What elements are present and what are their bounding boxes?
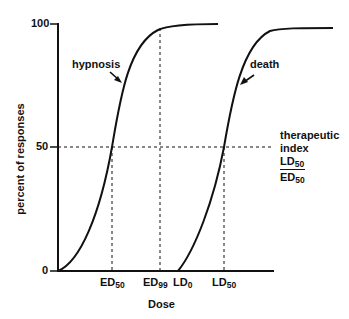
x-tick-ld50-main: LD [212,276,227,288]
y-tick-label-100: 100 [31,18,49,29]
x-tick-ld0-sub: 0 [188,280,193,290]
ti-line1: therapeutic [280,129,339,142]
x-tick-ed50-main: ED [100,276,115,288]
y-tick-label-0: 0 [42,265,48,276]
ti-line2: index [280,142,339,155]
therapeutic-index-annotation: therapeutic index LD50 ED50 [280,129,339,184]
ti-fraction: LD50 ED50 [280,156,305,184]
x-tick-ld50-sub: 50 [227,280,236,290]
ti-den-main: ED [280,171,295,183]
ti-num-main: LD [280,155,295,167]
death-label: death [250,59,279,70]
y-tick-label-50: 50 [36,141,48,152]
x-tick-ed99-main: ED [143,276,158,288]
ti-den-sub: 50 [295,175,304,185]
death-arrow-icon [240,75,254,85]
y-axis-label: percent of responses [14,103,26,214]
x-tick-ed99: ED99 [143,277,168,288]
ti-num-sub: 50 [295,159,304,169]
x-tick-ld50: LD50 [212,277,236,288]
x-tick-ld0-main: LD [173,276,188,288]
x-tick-ed50: ED50 [100,277,125,288]
ti-denominator: ED50 [280,170,305,184]
hypnosis-label: hypnosis [72,59,120,70]
ti-numerator: LD50 [280,156,305,170]
x-axis-label: Dose [148,299,175,310]
hypnosis-arrow-icon [110,72,122,83]
x-tick-ed50-sub: 50 [115,280,124,290]
x-tick-ld0: LD0 [173,277,192,288]
x-tick-ed99-sub: 99 [158,280,167,290]
